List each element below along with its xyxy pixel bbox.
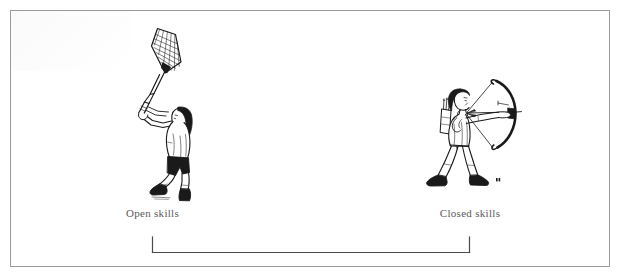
open-skills-caption: Open skills (105, 207, 200, 219)
archer-shoes (427, 175, 489, 186)
bow-arm (466, 112, 510, 124)
player-torso (166, 122, 189, 159)
racket-head-icon (152, 29, 182, 74)
figure-root: Open skills Closed skills (0, 0, 622, 275)
archer-svg (420, 72, 535, 202)
closed-skills-caption: Closed skills (420, 207, 520, 219)
continuum-bracket-svg (148, 233, 476, 259)
badminton-player-illustration (118, 24, 223, 202)
artist-mark (496, 178, 500, 181)
badminton-player-svg (118, 24, 223, 202)
player-shorts (168, 157, 190, 176)
skills-continuum-bracket (148, 233, 476, 259)
archer-torso (449, 115, 470, 147)
player-shoes (150, 184, 191, 201)
archer-illustration (420, 72, 535, 202)
archer-legs (438, 146, 478, 177)
